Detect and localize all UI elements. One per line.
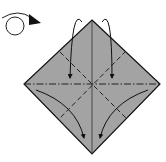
- origami-diagram: [0, 0, 166, 162]
- turn-over-icon: [2, 13, 41, 35]
